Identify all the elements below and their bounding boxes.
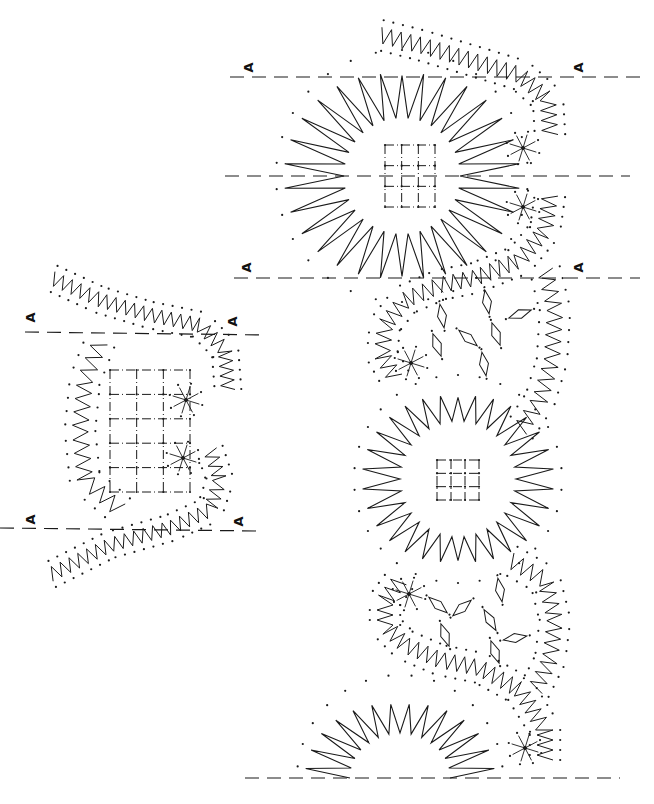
pin-hole (517, 57, 519, 59)
pin-hole (350, 290, 352, 292)
pin-hole (162, 393, 164, 395)
pin-hole (95, 420, 97, 422)
pin-hole (108, 288, 110, 290)
pin-hole (375, 298, 377, 300)
pin-hole (67, 466, 69, 468)
pin-hole (503, 85, 505, 87)
pin-hole (470, 262, 472, 264)
pin-hole (369, 609, 371, 611)
pin-hole (532, 110, 534, 112)
pin-hole (384, 165, 386, 167)
pin-hole (438, 619, 441, 622)
pin-hole (292, 238, 294, 240)
pin-hole (68, 383, 70, 385)
pin-hole (185, 505, 187, 507)
star-center (407, 592, 411, 596)
pin-hole (64, 581, 66, 583)
pin-hole (472, 704, 474, 706)
zigzag-edges (47, 19, 570, 761)
pin-hole (239, 369, 241, 371)
pin-hole (384, 645, 386, 647)
pin-hole (506, 201, 508, 203)
pin-hole (108, 480, 110, 482)
pin-hole (221, 327, 223, 329)
pin-hole (520, 275, 522, 277)
pin-hole (180, 415, 182, 417)
pin-hole (510, 415, 512, 417)
pin-hole (162, 491, 164, 493)
pin-hole (535, 591, 537, 593)
pin-hole (452, 290, 454, 292)
pin-hole (450, 459, 452, 461)
pin-hole (373, 313, 375, 315)
pin-hole (189, 491, 191, 493)
pin-hole (189, 369, 191, 371)
pin-hole (222, 445, 224, 447)
pin-hole (524, 674, 526, 676)
pin-hole (465, 74, 467, 76)
pin-hole (136, 418, 138, 420)
pin-hole (353, 467, 355, 469)
pin-hole (170, 407, 172, 409)
pin-hole (405, 378, 407, 380)
pin-hole (424, 598, 426, 600)
pin-hole (559, 729, 561, 731)
diamond-shape (456, 327, 480, 349)
pin-hole (281, 214, 283, 216)
pin-hole (526, 162, 528, 164)
pin-hole (391, 652, 393, 654)
pin-hole (534, 547, 536, 549)
pin-hole (526, 389, 528, 391)
pin-hole (402, 24, 404, 26)
pin-hole (396, 562, 398, 564)
pin-hole (190, 383, 192, 385)
pin-hole (434, 165, 436, 167)
pin-hole (410, 675, 412, 677)
pin-hole (508, 742, 510, 744)
pin-hole (136, 491, 138, 493)
pin-hole (564, 368, 566, 370)
pin-hole (98, 384, 100, 386)
pin-hole (91, 538, 93, 540)
pin-hole (372, 590, 374, 592)
pin-hole (392, 588, 394, 590)
pin-hole (559, 759, 561, 761)
pin-hole (562, 103, 564, 105)
pin-hole (478, 459, 480, 461)
pin-hole (162, 543, 164, 545)
diamond-leaf (498, 631, 531, 645)
pin-hole (465, 649, 467, 651)
pin-hole (528, 634, 531, 637)
diamond-leaves (423, 285, 537, 668)
pin-hole (69, 480, 71, 482)
pin-hole (213, 385, 215, 387)
pin-hole (565, 650, 567, 652)
pin-hole (516, 546, 518, 548)
pin-hole (214, 320, 216, 322)
diamond-leaf (435, 299, 449, 332)
pin-hole (153, 301, 155, 303)
pin-hole (564, 123, 566, 125)
pin-hole (418, 377, 420, 379)
pin-hole (104, 516, 106, 518)
pin-hole (523, 724, 525, 726)
pin-hole (474, 681, 476, 683)
pin-hole (50, 291, 52, 293)
pin-hole (434, 144, 436, 146)
pin-hole (411, 26, 413, 28)
pin-hole (55, 586, 57, 588)
pin-hole (383, 19, 385, 21)
pin-hole (276, 162, 278, 164)
diamond-shape (493, 577, 506, 602)
pin-hole (90, 568, 92, 570)
pin-hole (559, 265, 561, 267)
pin-hole (307, 91, 309, 93)
pin-hole (399, 284, 401, 286)
pin-hole (399, 624, 401, 626)
pin-hole (529, 226, 531, 228)
pin-hole (417, 144, 419, 146)
pin-hole (457, 582, 459, 584)
pin-hole (560, 489, 562, 491)
pin-hole (475, 73, 477, 75)
pin-hole (446, 68, 448, 70)
